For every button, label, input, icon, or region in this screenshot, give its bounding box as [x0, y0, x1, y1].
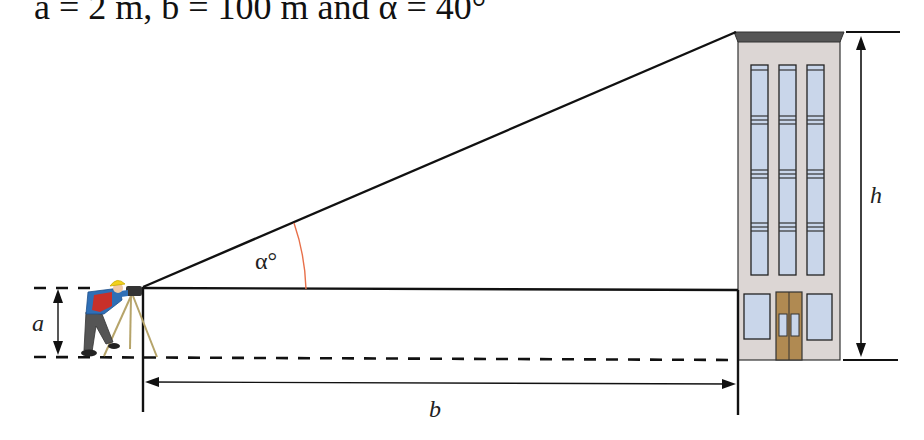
- label-h: h: [870, 182, 882, 208]
- dimension-b: [145, 377, 736, 389]
- angle-alpha-arc: [294, 223, 306, 289]
- line-of-sight: [143, 32, 736, 287]
- trigonometry-diagram: h α° b a: [0, 0, 924, 440]
- ground-dashed-line: [34, 357, 738, 360]
- horizontal-sight-line: [143, 288, 738, 290]
- building: [734, 32, 844, 360]
- label-alpha: α°: [255, 248, 277, 274]
- label-a: a: [32, 310, 44, 336]
- surveyor-with-theodolite: [81, 280, 157, 357]
- label-b: b: [429, 396, 441, 422]
- dimension-a: [53, 289, 63, 355]
- door: [776, 292, 802, 360]
